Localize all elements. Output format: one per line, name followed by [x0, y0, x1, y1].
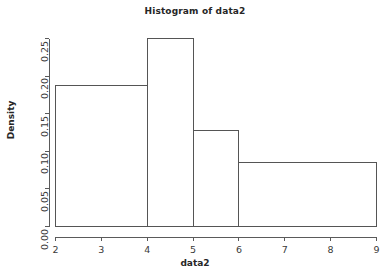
x-tick-label: 7 [273, 244, 297, 255]
y-tick-label: 0.15 [38, 113, 49, 139]
histogram-bar [56, 85, 148, 226]
histogram-bar [239, 163, 377, 227]
histogram-plot: Histogram of data2 Density data2 2345678… [0, 0, 390, 279]
axes [45, 39, 377, 242]
histogram-bar [193, 131, 239, 227]
x-tick-label: 4 [135, 244, 159, 255]
y-tick-label: 0.25 [38, 38, 49, 64]
y-tick-label: 0.05 [38, 188, 49, 214]
histogram-bar [147, 39, 193, 227]
x-tick-label: 8 [319, 244, 343, 255]
x-tick-label: 5 [181, 244, 205, 255]
histogram-bars [56, 39, 377, 227]
x-tick-label: 6 [227, 244, 251, 255]
plot-canvas [0, 0, 390, 279]
x-tick-label: 9 [365, 244, 389, 255]
y-tick-label: 0.20 [38, 76, 49, 102]
y-tick-label: 0.00 [38, 226, 49, 252]
x-tick-label: 3 [89, 244, 113, 255]
y-tick-label: 0.10 [38, 151, 49, 177]
